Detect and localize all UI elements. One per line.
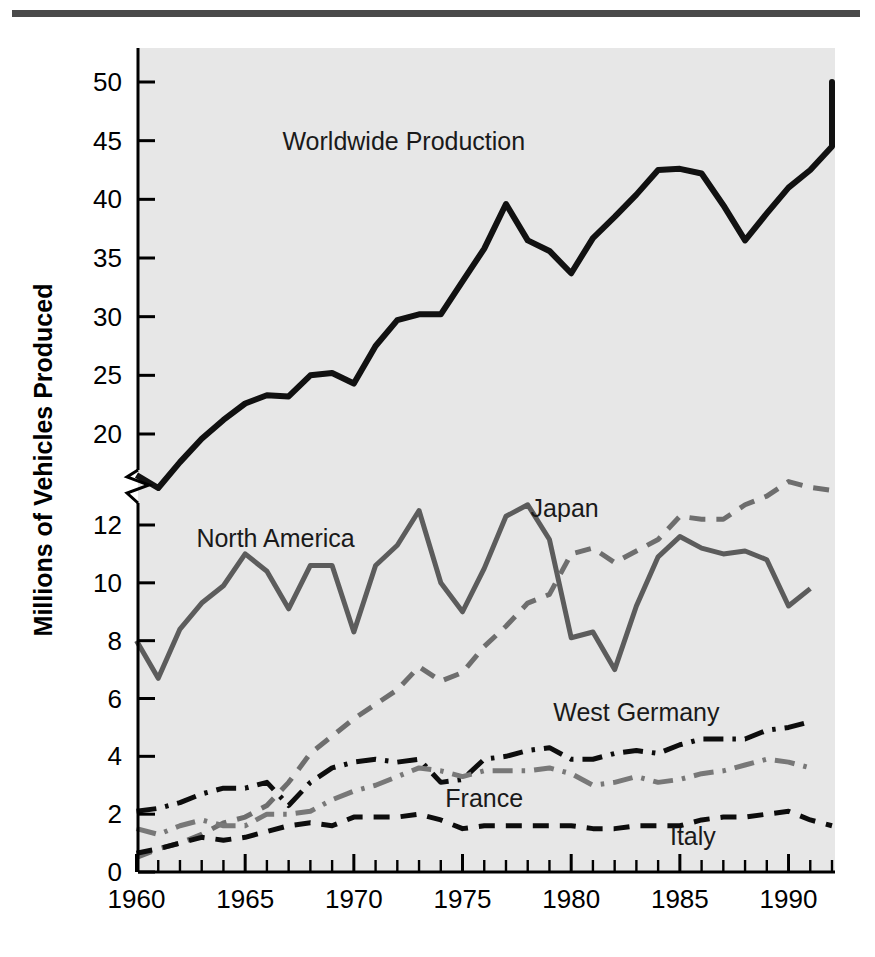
y-tick-label-30: 30	[93, 302, 122, 332]
y-tick-label-0: 0	[108, 857, 122, 887]
figure-root: 2025303540455002468101219601965197019751…	[0, 0, 875, 957]
y-tick-label-10: 10	[93, 568, 122, 598]
y-tick-label-25: 25	[93, 360, 122, 390]
x-tick-label-1990: 1990	[760, 884, 818, 914]
x-tick-label-1965: 1965	[216, 884, 274, 914]
x-tick-label-1980: 1980	[542, 884, 600, 914]
x-tick-label-1960: 1960	[108, 884, 166, 914]
y-tick-label-12: 12	[93, 510, 122, 540]
y-tick-label-4: 4	[108, 741, 122, 771]
y-tick-label-2: 2	[108, 799, 122, 829]
series-label-japan: Japan	[531, 494, 599, 522]
series-label-france: France	[445, 784, 523, 812]
y-tick-label-8: 8	[108, 626, 122, 656]
x-tick-label-1970: 1970	[325, 884, 383, 914]
y-axis-title: Millions of Vehicles Produced	[29, 284, 57, 637]
y-tick-label-40: 40	[93, 184, 122, 214]
series-label-west-germany: West Germany	[553, 698, 720, 726]
series-label-worldwide-production: Worldwide Production	[282, 127, 525, 155]
vehicle-production-chart: 2025303540455002468101219601965197019751…	[0, 0, 875, 957]
series-label-north-america: North America	[196, 524, 354, 552]
y-tick-label-20: 20	[93, 419, 122, 449]
y-tick-label-35: 35	[93, 243, 122, 273]
y-tick-label-6: 6	[108, 684, 122, 714]
y-tick-label-45: 45	[93, 126, 122, 156]
series-label-italy: Italy	[670, 822, 716, 850]
x-tick-label-1985: 1985	[651, 884, 709, 914]
y-tick-label-50: 50	[93, 67, 122, 97]
x-tick-label-1975: 1975	[434, 884, 492, 914]
plot-background	[138, 48, 835, 872]
